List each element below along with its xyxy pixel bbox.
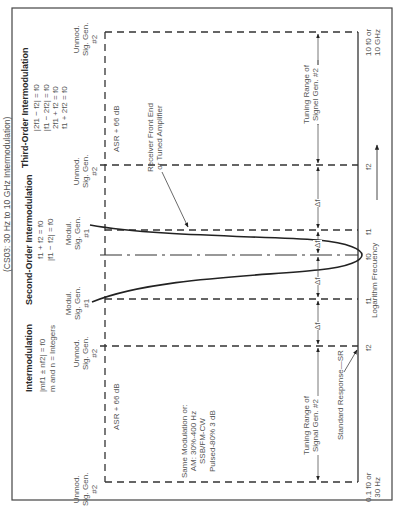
tuning-range-high-label: Tuning Range of Signel Gen. #2 <box>302 65 320 124</box>
third-order-block: Third-Order Intermodulation |2f1 − f2| =… <box>20 48 69 169</box>
asr-level-low: ASR + 66 dB <box>112 384 121 430</box>
x-axis-label: Logarithm Frecuency <box>370 243 379 318</box>
sr-callout-arrow <box>344 350 357 372</box>
delta-label-4: Δf <box>313 322 322 330</box>
third-order-eq3: 2f1 + f2 = f0 <box>51 48 60 169</box>
tuning-range-low-label: Tuning Range of Signal Gen. #2 <box>302 396 320 455</box>
intermodulation-eq2: m and n = Integers <box>48 324 57 392</box>
mod-gen-label-f1-high: Modul.Sig. Gen.#1 <box>64 217 92 250</box>
tick-f2-low: f2 <box>364 344 373 351</box>
third-order-heading: Third-Order Intermodulation <box>20 48 30 169</box>
mod-gen-label-f1-low: Modul.Sig. Gen.#1 <box>64 287 92 320</box>
third-order-eq4: f1 + 2f2 = f0 <box>60 48 69 169</box>
unmod-gen-label-high: Unmod.Sig. Gen.#2 <box>72 23 100 56</box>
third-order-eq2: |f1 − 2f2| = f0 <box>42 48 51 169</box>
unmod-gen-label-f2-low: Unmod.Sig. Gen.#2 <box>72 337 100 370</box>
intermodulation-diagram: (CS03: 30 Hz to 10 GHz Intermodulation) … <box>0 0 398 512</box>
receiver-callout-arrow <box>162 172 188 227</box>
receiver-callout-label: Receiver Front End or Tuned Amplifier <box>146 103 164 172</box>
delta-label-1: Δf <box>313 199 322 207</box>
tick-f2-high: f2 <box>364 163 373 170</box>
intermodulation-eq1: |mf1 ± nf2| = f0 <box>38 324 47 392</box>
second-order-eq1: f1 + f2 = f0 <box>36 174 45 305</box>
tick-f1-high: f1 <box>364 228 373 235</box>
delta-label-3: Δf <box>313 277 322 285</box>
asr-level-high: ASR + 66 dB <box>112 106 121 152</box>
second-order-heading: Second-Order Intermodulation <box>24 174 34 305</box>
second-order-block: Second-Order Intermodulation f1 + f2 = f… <box>24 174 55 305</box>
third-order-eq1: |2f1 − f2| = f0 <box>32 48 41 169</box>
standard-response-label: Standard Response—SR <box>336 350 345 440</box>
unmod-gen-label-low: Unmod.Sig. Gen.#2 <box>72 473 100 506</box>
tick-high: 10 f0 or10 GHz <box>364 29 382 56</box>
modulation-note: Same Modulation or: AM: 30%-400 Hz SSB/F… <box>180 404 217 478</box>
unmod-gen-label-f2-high: Unmod.Sig. Gen.#2 <box>72 155 100 188</box>
tick-low: 0.1 f0 or30 Hz <box>364 473 382 502</box>
receiver-response-curve <box>90 225 362 302</box>
figure-title: (CS03: 30 Hz to 10 GHz Intermodulation) <box>3 117 13 272</box>
intermodulation-heading: Intermodulation <box>24 324 34 392</box>
delta-label-2: Δf <box>313 240 322 248</box>
intermodulation-block: Intermodulation |mf1 ± nf2| = f0 m and n… <box>24 324 57 392</box>
second-order-eq2: |f1 − f2| = f0 <box>46 174 55 305</box>
